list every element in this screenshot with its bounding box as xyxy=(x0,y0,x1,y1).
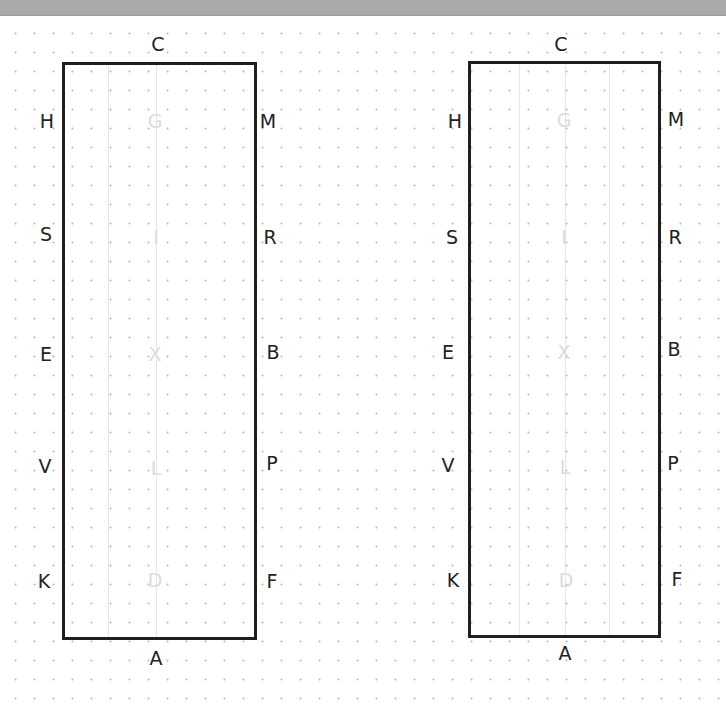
letter-center: X xyxy=(148,345,161,364)
letter-center: D xyxy=(148,571,163,590)
letter-center: X xyxy=(557,343,570,362)
letter-left: H xyxy=(40,112,54,131)
letter-center: D xyxy=(559,571,574,590)
letter-right: M xyxy=(668,110,684,129)
letter-bottom: A xyxy=(559,644,572,663)
letter-right: B xyxy=(266,343,279,362)
letter-left: S xyxy=(446,228,458,247)
letter-right: F xyxy=(267,572,278,591)
letter-top: C xyxy=(151,35,164,54)
letter-right: F xyxy=(672,570,683,589)
letter-right: R xyxy=(263,228,276,247)
letter-left: H xyxy=(448,112,462,131)
letter-bottom: A xyxy=(150,649,163,668)
letter-left: V xyxy=(442,456,455,475)
quarter-line xyxy=(108,65,109,637)
letter-center: L xyxy=(151,459,162,478)
letter-left: V xyxy=(39,457,52,476)
letter-center: L xyxy=(560,458,571,477)
letter-center: G xyxy=(557,111,572,130)
letter-right: B xyxy=(667,340,680,359)
top-bar xyxy=(0,0,726,16)
letter-right: P xyxy=(266,454,277,473)
letter-right: P xyxy=(667,454,678,473)
letter-left: E xyxy=(40,345,52,364)
letter-left: K xyxy=(447,571,459,590)
quarter-line xyxy=(519,64,520,635)
letter-center: I xyxy=(153,228,159,247)
letter-left: S xyxy=(40,225,52,244)
letter-right: M xyxy=(260,112,276,131)
letter-left: E xyxy=(442,343,454,362)
letter-center: I xyxy=(561,228,567,247)
letter-left: K xyxy=(38,572,50,591)
letter-top: C xyxy=(554,35,567,54)
quarter-line xyxy=(609,64,610,635)
letter-right: R xyxy=(668,228,681,247)
letter-center: G xyxy=(148,112,163,131)
